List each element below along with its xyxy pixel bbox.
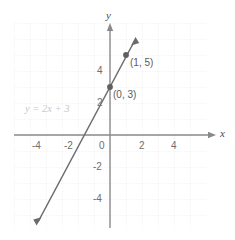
point-marker-1-5 [123, 52, 129, 58]
y-tick-label-2: 2 [97, 98, 103, 108]
x-tick-label-neg2: -2 [64, 141, 73, 151]
origin-label: 0 [99, 141, 105, 151]
y-tick-label-4: 4 [97, 66, 103, 76]
x-axis-label: x [220, 128, 225, 139]
equation-label: y = 2x + 3 [25, 103, 70, 114]
point-label-1-5: (1, 5) [130, 58, 153, 68]
y-axis-label: y [106, 10, 111, 21]
coordinate-plane [0, 0, 235, 240]
x-tick-label-4: 4 [171, 141, 177, 151]
y-tick-label-neg4: -4 [93, 194, 102, 204]
point-label-0-3: (0, 3) [113, 90, 136, 100]
x-tick-label-2: 2 [139, 141, 145, 151]
graph-figure: y x -4 -2 0 2 4 4 2 -2 -4 (0, 3) (1, 5) … [0, 0, 235, 240]
x-tick-label-neg4: -4 [32, 141, 41, 151]
y-tick-label-neg2: -2 [93, 162, 102, 172]
